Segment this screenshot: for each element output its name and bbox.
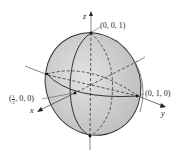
z-arrow-icon <box>89 11 93 16</box>
ellipsoid-figure <box>0 0 178 156</box>
y-axis-label: y <box>161 110 165 118</box>
point-label-y-intercept: (0, 1, 0) <box>145 90 170 98</box>
x-arrow-icon <box>37 107 43 112</box>
ellipsoid-diagram: z x y (0, 0, 1) (0, 1, 0) (12, 0, 0) <box>0 0 178 156</box>
z-axis-label: z <box>83 13 86 21</box>
point-label-x-intercept: (12, 0, 0) <box>9 94 34 105</box>
point-label-z-intercept: (0, 0, 1) <box>100 22 125 30</box>
y-arrow-icon <box>160 103 166 108</box>
x-axis-label: x <box>30 107 34 115</box>
